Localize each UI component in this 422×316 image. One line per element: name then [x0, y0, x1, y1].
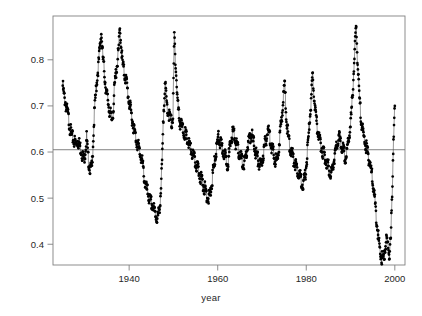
svg-text:0.6: 0.6 [31, 146, 44, 157]
series-points-rho [61, 25, 396, 266]
svg-text:1940: 1940 [119, 273, 140, 284]
svg-text:0.8: 0.8 [31, 54, 44, 65]
svg-text:0.4: 0.4 [31, 239, 44, 250]
timeseries-plot: 1940196019802000 0.40.50.60.70.8 [0, 0, 422, 316]
chart-figure: 1940196019802000 0.40.50.60.70.8 rho(t) … [0, 0, 422, 316]
svg-text:1960: 1960 [207, 273, 228, 284]
y-axis-ticks: 0.40.50.60.70.8 [31, 54, 53, 249]
x-axis-ticks: 1940196019802000 [119, 265, 406, 284]
svg-text:0.5: 0.5 [31, 193, 44, 204]
svg-text:2000: 2000 [384, 273, 405, 284]
x-axis-title: year [0, 292, 422, 303]
svg-text:1980: 1980 [296, 273, 317, 284]
svg-text:0.7: 0.7 [31, 100, 44, 111]
